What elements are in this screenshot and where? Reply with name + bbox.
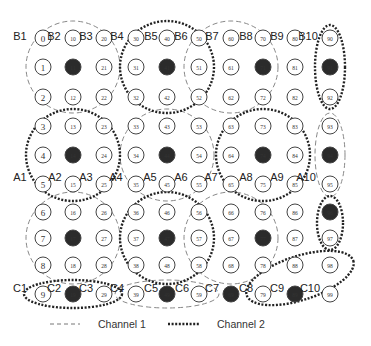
node-id: 37 [133, 236, 139, 242]
node: 79 [255, 286, 271, 302]
node-id: 19 [70, 292, 76, 298]
region-label: B10 [298, 30, 318, 42]
node-id: 68 [228, 263, 234, 269]
node: 24 [96, 147, 112, 163]
node-id: 36 [133, 210, 139, 216]
node-id: 92 [327, 95, 333, 101]
node: 95 [322, 176, 338, 192]
node: 38 [128, 257, 144, 273]
node-id: 71 [260, 65, 266, 71]
node: 39 [128, 286, 144, 302]
node: 73 [255, 118, 271, 134]
node-id: 64 [228, 153, 234, 159]
region-label: C2 [47, 282, 61, 294]
node-id: 2 [41, 93, 46, 103]
node-id: 58 [196, 263, 202, 269]
node-id: 15 [70, 182, 76, 188]
node: 13 [65, 118, 81, 134]
node-id: 20 [101, 36, 107, 42]
node: 26 [96, 204, 112, 220]
node-id: 73 [260, 124, 266, 130]
node-id: 45 [164, 182, 170, 188]
node: 35 [128, 176, 144, 192]
node-id: 59 [196, 292, 202, 298]
node: 82 [287, 89, 303, 105]
node: 60 [223, 30, 239, 46]
node-id: 38 [133, 263, 139, 269]
node-id: 26 [101, 210, 107, 216]
node-id: 33 [133, 124, 139, 130]
node-id: 49 [164, 292, 170, 298]
active-node: 41 [159, 59, 175, 75]
legend-channel-2-label: Channel 2 [217, 318, 265, 330]
node-id: 74 [260, 153, 266, 159]
node: 68 [223, 257, 239, 273]
node: 98 [322, 257, 338, 273]
region-label: A6 [174, 171, 187, 183]
node-id: 7 [41, 234, 46, 244]
node: 36 [128, 204, 144, 220]
node: 64 [223, 147, 239, 163]
active-node: 71 [255, 59, 271, 75]
node: 40 [159, 30, 175, 46]
node-id: 13 [70, 124, 76, 130]
node-id: 21 [101, 65, 107, 71]
region-label: B3 [79, 30, 92, 42]
node-id: 55 [196, 182, 202, 188]
active-node: 47 [159, 230, 175, 246]
node: 76 [255, 204, 271, 220]
node-id: 69 [228, 292, 234, 298]
node: 27 [96, 230, 112, 246]
node-id: 43 [164, 124, 170, 130]
node: 46 [159, 204, 175, 220]
node-id: 35 [133, 182, 139, 188]
node-id: 18 [70, 263, 76, 269]
node-id: 93 [327, 124, 333, 130]
node-id: 84 [292, 153, 298, 159]
node: 92 [322, 89, 338, 105]
active-node: 17 [65, 230, 81, 246]
node: 3 [35, 118, 51, 134]
node-id: 53 [196, 124, 202, 130]
node: 58 [191, 257, 207, 273]
node-id: 34 [133, 153, 139, 159]
region-label: A7 [204, 171, 217, 183]
node-id: 77 [260, 236, 266, 242]
node: 57 [191, 230, 207, 246]
region-label: C1 [13, 282, 27, 294]
node-id: 70 [260, 36, 266, 42]
node-id: 90 [327, 36, 333, 42]
node: 4 [35, 147, 51, 163]
node: 16 [65, 204, 81, 220]
node-id: 57 [196, 236, 202, 242]
node-id: 5 [41, 180, 46, 190]
node-id: 40 [164, 36, 170, 42]
node: 30 [128, 30, 144, 46]
node: 54 [191, 147, 207, 163]
node: 12 [65, 89, 81, 105]
node-id: 25 [101, 182, 107, 188]
node: 31 [128, 59, 144, 75]
node-id: 89 [292, 292, 298, 298]
node-id: 79 [260, 292, 266, 298]
node-id: 6 [41, 208, 46, 218]
node-id: 75 [260, 182, 266, 188]
node-id: 41 [164, 65, 170, 71]
node-id: 47 [164, 236, 170, 242]
node-id: 9 [41, 290, 46, 300]
node-id: 31 [133, 65, 139, 71]
node: 56 [191, 204, 207, 220]
region-label: B9 [270, 30, 283, 42]
region-label: B4 [110, 30, 123, 42]
node: 65 [223, 176, 239, 192]
node-id: 96 [327, 210, 333, 216]
node-id: 56 [196, 210, 202, 216]
node-id: 66 [228, 210, 234, 216]
node-id: 51 [196, 65, 202, 71]
node-id: 62 [228, 95, 234, 101]
node-id: 76 [260, 210, 266, 216]
active-node: 44 [159, 147, 175, 163]
region-label: B8 [239, 30, 252, 42]
active-node: 49 [159, 286, 175, 302]
node-id: 0 [41, 34, 46, 44]
